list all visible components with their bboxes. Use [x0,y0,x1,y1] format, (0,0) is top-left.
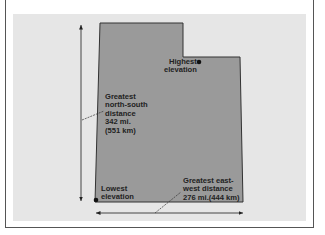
north-south-label: Greatest north-south distance 342 mi. (5… [105,93,148,135]
state-outline-diagram [0,0,325,235]
east-west-label: Greatest east- west distance 276 mi.(444… [183,177,240,202]
lowest-elevation-label: Lowest elevation [101,185,134,202]
lowest-elevation-dot [94,198,99,203]
highest-elevation-label: Highest elevation [163,58,197,75]
highest-elevation-dot [197,60,202,65]
